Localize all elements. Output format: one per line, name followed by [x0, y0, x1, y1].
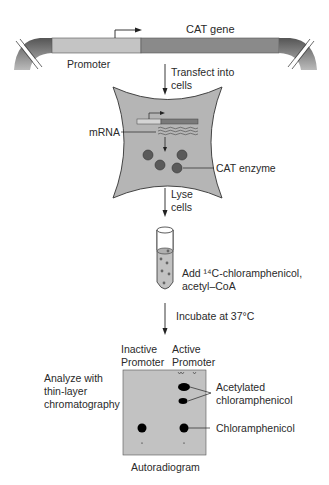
cat-gene-segment: [141, 38, 279, 53]
autoradiogram-caption: Autoradiogram: [131, 461, 200, 473]
step-lyse-label-2: cells: [171, 201, 192, 213]
step-incubate-label: Incubate at 37°C: [176, 310, 254, 322]
step-add-label-1: Add ¹⁴C-chloramphenicol,: [182, 267, 302, 279]
step-analyze-label-1: Analyze with: [44, 372, 103, 384]
cat-enzyme-label: CAT enzyme: [216, 162, 276, 174]
mrna-label: mRNA: [89, 126, 120, 138]
lane-inactive-label-1: Inactive: [121, 343, 157, 355]
arrow-down-icon: [163, 64, 168, 95]
plasmid-left-end: [14, 38, 52, 70]
promoter-label: Promoter: [67, 58, 110, 70]
cell-promoter: [137, 119, 161, 124]
cat-gene-label: CAT gene: [186, 23, 235, 35]
tlc-plate: [123, 370, 206, 455]
acetylated-spot-small: [179, 398, 188, 404]
acetylated-label-2: chloramphenicol: [216, 394, 292, 406]
chloramphenicol-spot-inactive: [138, 424, 147, 433]
step-analyze-label-3: chromatography: [44, 398, 120, 410]
cell-gene: [161, 119, 198, 124]
chloramphenicol-label: Chloramphenicol: [216, 422, 295, 434]
lane-active-label-2: Promoter: [172, 356, 215, 368]
step-transfect-label-2: cells: [171, 79, 192, 91]
chloramphenicol-spot-active: [180, 424, 189, 433]
cell-shape: [113, 87, 222, 198]
acetylated-label-1: Acetylated: [216, 381, 265, 393]
arrow-down-icon: [163, 303, 168, 335]
cat-assay-diagram: [0, 0, 329, 485]
lane-active-label-1: Active: [172, 343, 201, 355]
lane-inactive-label-2: Promoter: [121, 356, 164, 368]
step-transfect-label-1: Transfect into: [171, 66, 234, 78]
arrow-down-icon: [163, 188, 168, 217]
acetylated-spot-large: [178, 383, 190, 391]
step-analyze-label-2: thin-layer: [44, 385, 87, 397]
step-add-label-2: acetyl–CoA: [182, 280, 236, 292]
test-tube-icon: [157, 227, 173, 289]
transcription-start-arrow-icon: [115, 28, 142, 39]
plasmid-right-end: [279, 38, 317, 70]
step-lyse-label-1: Lyse: [171, 188, 193, 200]
promoter-segment: [52, 38, 141, 53]
